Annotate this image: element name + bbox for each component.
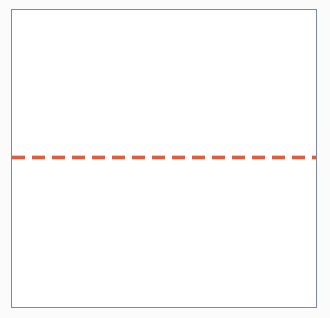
plot-area	[12, 10, 316, 307]
figure-canvas	[0, 0, 330, 318]
threshold-dashed-line	[12, 156, 316, 159]
plot-frame	[11, 9, 317, 308]
